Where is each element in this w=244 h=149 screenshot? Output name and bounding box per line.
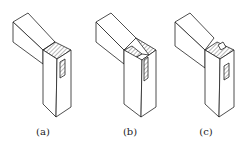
label-a: (a)	[36, 126, 50, 137]
label-c: (c)	[199, 126, 212, 137]
joint-c	[175, 13, 234, 117]
joint-b	[96, 13, 156, 117]
joint-a	[13, 13, 71, 117]
label-b: (b)	[123, 126, 137, 137]
